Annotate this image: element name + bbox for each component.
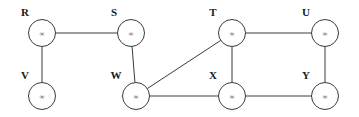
node-label-w: W [111, 69, 122, 81]
graph-node-u[interactable]: ∞ [312, 20, 339, 47]
graph-node-w[interactable]: ∞ [123, 83, 150, 110]
node-label-v: V [21, 69, 29, 81]
graph-node-s[interactable]: ∞ [118, 20, 145, 47]
node-value-v: ∞ [40, 93, 45, 101]
graph-edge-s-w [132, 46, 135, 82]
node-label-x: X [209, 69, 217, 81]
graph-node-r[interactable]: ∞ [29, 20, 56, 47]
node-label-t: T [209, 6, 217, 18]
node-value-u: ∞ [323, 30, 328, 38]
node-value-w: ∞ [134, 93, 139, 101]
node-value-y: ∞ [323, 93, 328, 101]
graph-node-v[interactable]: ∞ [29, 83, 56, 110]
graph-canvas: ∞∞∞∞∞∞∞∞ RSTUVWXY [0, 0, 359, 117]
graph-node-t[interactable]: ∞ [219, 20, 246, 47]
node-value-s: ∞ [129, 30, 134, 38]
labels-layer: RSTUVWXY [21, 6, 310, 81]
node-label-u: U [302, 6, 310, 18]
node-label-r: R [21, 6, 30, 18]
graph-node-x[interactable]: ∞ [219, 83, 246, 110]
node-value-x: ∞ [230, 93, 235, 101]
node-value-r: ∞ [40, 30, 45, 38]
graph-edge-t-w [147, 40, 220, 88]
node-label-s: S [111, 6, 117, 18]
node-label-y: Y [302, 69, 310, 81]
edges-layer [42, 33, 325, 96]
graph-node-y[interactable]: ∞ [312, 83, 339, 110]
node-value-t: ∞ [230, 30, 235, 38]
graph-figure: ∞∞∞∞∞∞∞∞ RSTUVWXY [0, 0, 359, 117]
